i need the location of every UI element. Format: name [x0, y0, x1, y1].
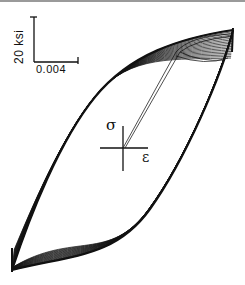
strain-scale-label: 0.004	[36, 63, 66, 75]
hysteresis-plot	[0, 0, 245, 285]
stress-axis-label: σ	[106, 116, 116, 134]
strain-axis-label: ε	[142, 149, 149, 165]
scale-bar	[30, 17, 78, 64]
hysteresis-figure: 20 ksi 0.004 σ ε	[0, 0, 245, 285]
stress-scale-label: 20 ksi	[12, 30, 26, 64]
